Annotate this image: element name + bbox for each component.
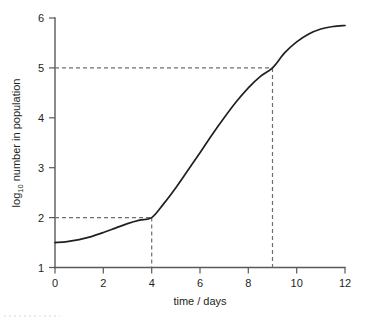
y-tick-label-5: 5 <box>38 62 44 74</box>
population-growth-chart: 6 5 4 3 2 1 log10 number in population <box>0 0 369 321</box>
x-axis-title: time / days <box>173 295 227 307</box>
x-tick-label-4: 4 <box>149 277 155 289</box>
y-tick-label-4: 4 <box>38 112 44 124</box>
x-tick-label-12: 12 <box>339 277 351 289</box>
y-axis-title-main: number in population <box>10 79 22 182</box>
x-tick-label-8: 8 <box>245 277 251 289</box>
chart-figure: 6 5 4 3 2 1 log10 number in population <box>0 0 369 321</box>
y-axis-title-prefix: log <box>10 193 22 208</box>
y-axis-title-subscript: 10 <box>16 184 25 192</box>
y-tick-label-2: 2 <box>38 212 44 224</box>
y-tick-label-1: 1 <box>38 262 44 274</box>
x-tick-label-0: 0 <box>52 277 58 289</box>
y-tick-label-3: 3 <box>38 162 44 174</box>
y-tick-label-6: 6 <box>38 12 44 24</box>
x-tick-label-10: 10 <box>291 277 303 289</box>
x-tick-label-6: 6 <box>197 277 203 289</box>
x-tick-label-2: 2 <box>100 277 106 289</box>
